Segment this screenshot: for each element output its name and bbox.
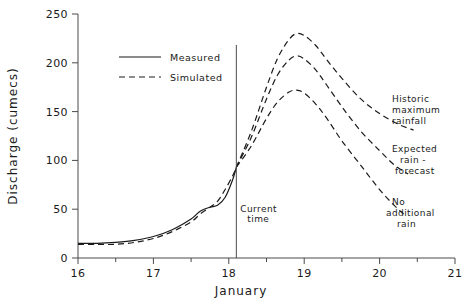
y-tick-label: 200 [46, 57, 68, 70]
expected-rain-forecast-label-line2: rain - [400, 155, 426, 165]
x-tick-label: 18 [221, 267, 236, 280]
no-additional-rain-label-line1: No [392, 197, 405, 207]
historic-max-rainfall-label-line1: Historic [392, 94, 429, 104]
legend-label-measured: Measured [170, 52, 220, 63]
legend-label-simulated: Simulated [170, 72, 223, 83]
series-historic-maximum-rainfall [236, 33, 413, 167]
x-tick-label: 16 [71, 267, 86, 280]
expected-rain-forecast-label-line1: Expected [392, 144, 437, 154]
series-expected-rain-forecast [236, 56, 408, 174]
y-axis-ticks [72, 14, 78, 258]
y-axis-tick-labels: 050100150200250 [46, 8, 68, 265]
series-no-additional-rain [236, 90, 403, 214]
x-axis-ticks [78, 258, 455, 264]
expected-rain-forecast-label-line3: forecast [395, 166, 435, 176]
legend: Measured Simulated [119, 52, 223, 83]
x-tick-label: 17 [146, 267, 161, 280]
no-additional-rain-label-line3: rain [397, 219, 416, 229]
series-simulated [78, 167, 236, 244]
x-tick-label: 21 [448, 267, 463, 280]
y-tick-label: 150 [46, 106, 68, 119]
x-tick-label: 19 [297, 267, 312, 280]
y-axis-title: Discharge (cumecs) [6, 67, 20, 204]
x-axis-title: January [214, 284, 268, 298]
y-tick-label: 250 [46, 8, 68, 21]
historic-max-rainfall-label-line2: maximum [392, 105, 440, 115]
y-tick-label: 0 [61, 252, 68, 265]
historic-max-rainfall-label-line3: rainfall [392, 116, 426, 126]
discharge-forecast-chart: 050100150200250 161718192021 Current tim… [0, 0, 469, 306]
y-tick-label: 100 [46, 154, 68, 167]
x-tick-label: 20 [372, 267, 387, 280]
current-time-label-line2: time [247, 214, 269, 224]
x-axis-tick-labels: 161718192021 [71, 267, 463, 280]
chart-canvas: 050100150200250 161718192021 Current tim… [0, 0, 469, 306]
curve-annotations: Historic maximum rainfall Expected rain … [386, 94, 440, 229]
y-tick-label: 50 [53, 203, 68, 216]
current-time-label-line1: Current [240, 204, 277, 214]
no-additional-rain-label-line2: additional [386, 208, 435, 218]
